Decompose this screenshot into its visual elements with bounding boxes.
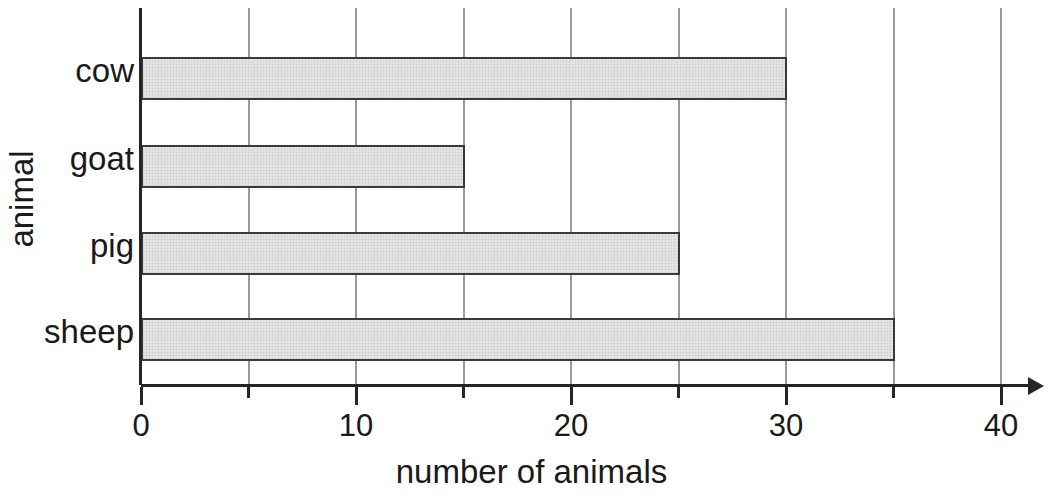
xtick-label-10: 10 <box>316 407 396 445</box>
xtick-40 <box>1000 387 1003 405</box>
category-label-cow: cow <box>0 51 134 91</box>
xtick-5 <box>247 387 250 398</box>
xtick-label-30: 30 <box>746 407 826 445</box>
xtick-10 <box>355 387 358 405</box>
x-axis-title: number of animals <box>0 452 1063 492</box>
xtick-15 <box>462 387 465 398</box>
xtick-25 <box>677 387 680 398</box>
xtick-label-40: 40 <box>961 407 1041 445</box>
xtick-20 <box>570 387 573 405</box>
bar-pig <box>141 232 680 275</box>
xtick-30 <box>785 387 788 405</box>
xtick-35 <box>892 387 895 398</box>
xtick-label-20: 20 <box>531 407 611 445</box>
bar-chart: 0 10 20 30 40 cow goat pig sheep animal … <box>0 0 1063 499</box>
y-axis-line <box>139 8 142 385</box>
bar-goat <box>141 145 465 188</box>
bar-cow <box>141 57 787 100</box>
category-label-sheep: sheep <box>0 312 134 352</box>
x-axis-arrow-icon <box>1028 377 1044 395</box>
plot-area <box>141 8 1000 385</box>
y-axis-title: animal <box>3 99 41 299</box>
gridline-40 <box>1000 8 1002 385</box>
x-axis-line <box>141 384 1035 387</box>
bar-sheep <box>141 318 895 361</box>
xtick-0 <box>140 387 143 405</box>
xtick-label-0: 0 <box>101 407 181 445</box>
